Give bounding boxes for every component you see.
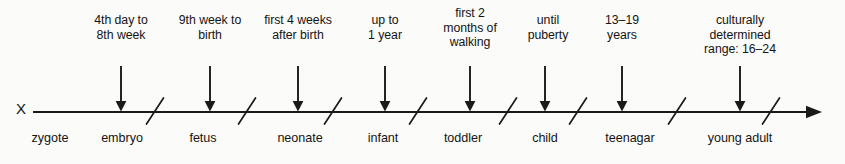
developmental-timeline-diagram: X 4th day to 8th week9th week to birthfi…	[0, 0, 845, 164]
stage-arrow-head-embryo	[116, 101, 127, 112]
stage-name-embryo: embryo	[101, 131, 143, 146]
stage-arrow-head-neonate	[293, 101, 304, 112]
stage-name-young-adult: young adult	[708, 131, 773, 146]
stage-caption-neonate: first 4 weeks after birth	[264, 13, 332, 42]
stage-caption-young-adult: culturally determined range: 16–24	[688, 13, 793, 57]
stage-caption-infant: up to 1 year	[368, 13, 402, 42]
stage-arrow-head-infant	[380, 101, 391, 112]
stage-name-child: child	[532, 131, 558, 146]
stage-name-teenagar: teenagar	[605, 131, 654, 146]
stage-name-neonate: neonate	[277, 131, 322, 146]
stage-caption-fetus: 9th week to birth	[179, 13, 241, 42]
stage-arrow-head-toddler	[465, 101, 476, 112]
stage-caption-embryo: 4th day to 8th week	[94, 13, 148, 42]
stage-arrow-head-child	[540, 101, 551, 112]
stage-name-fetus: fetus	[189, 131, 216, 146]
stage-arrow-head-fetus	[205, 101, 216, 112]
stage-caption-child: until puberty	[528, 13, 569, 42]
stage-name-zygote: zygote	[32, 131, 69, 146]
stage-caption-toddler: first 2 months of walking	[443, 6, 497, 50]
stage-name-toddler: toddler	[444, 131, 482, 146]
stage-name-infant: infant	[368, 131, 399, 146]
stage-arrow-head-young-adult	[735, 101, 746, 112]
axis-end-arrowhead	[806, 106, 822, 118]
stage-caption-teenagar: 13–19 years	[605, 13, 639, 42]
stage-arrow-head-teenagar	[617, 101, 628, 112]
